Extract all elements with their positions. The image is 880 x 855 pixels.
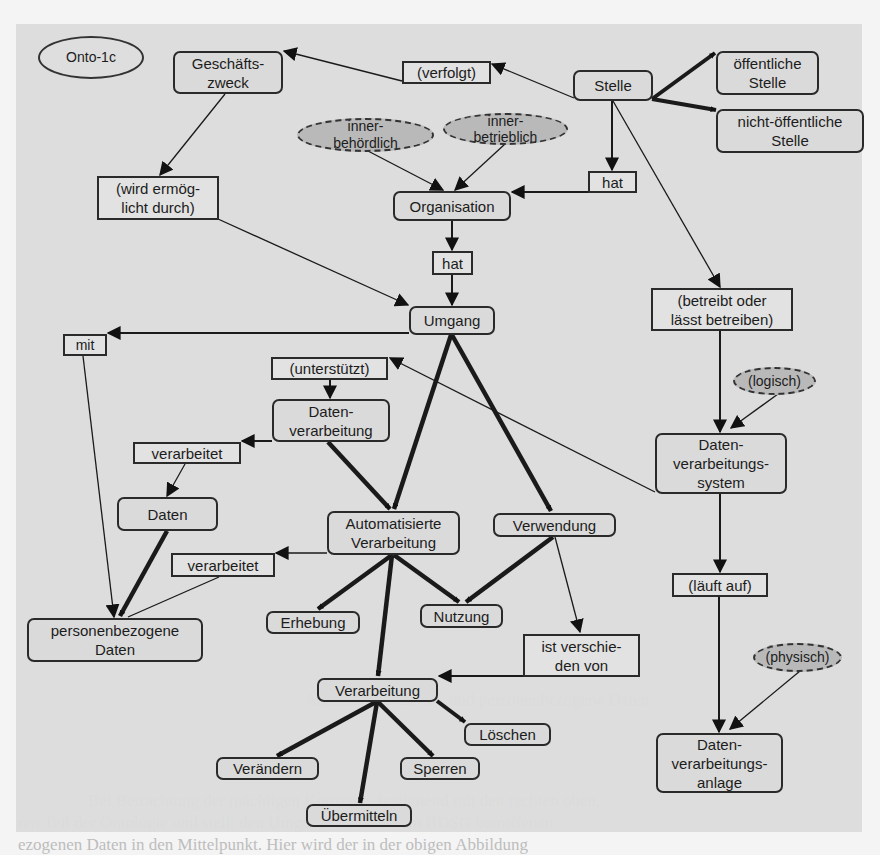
edge-umgang-verwendung <box>452 335 551 511</box>
concept-personenbezogene-daten[interactable]: personenbezogene Daten <box>27 618 203 662</box>
attribute-physisch[interactable]: (physisch) <box>753 643 842 672</box>
concept-label: Sperren <box>413 759 466 778</box>
concept-label: Daten- verarbeitungs- anlage <box>672 735 768 792</box>
concept-label: Verändern <box>233 759 302 778</box>
concept-label: nicht-öffentliche Stelle <box>738 112 843 150</box>
concept-label: Daten- verarbeitung <box>289 402 372 440</box>
edge-automatisiert-verarbeitung <box>378 555 392 676</box>
edge-physisch-dvanlage <box>730 671 800 729</box>
concept-datenverarbeitungssystem[interactable]: Daten- verarbeitungs- system <box>655 433 787 494</box>
edge-ermoeglicht-umgang <box>218 219 408 305</box>
attribute-label: (logisch) <box>748 372 801 391</box>
concept-label: Übermitteln <box>321 806 398 825</box>
concept-label: Erhebung <box>280 613 345 632</box>
attribute-label: inner- betrieblich <box>474 113 538 145</box>
relation-label: (betreibt oder lässt betreiben) <box>671 291 774 329</box>
edge-stelle-nicht-oeffentliche <box>652 99 716 110</box>
concept-datenverarbeitungsanlage[interactable]: Daten- verarbeitungs- anlage <box>656 733 783 793</box>
attribute-label: inner- behördlich <box>333 118 398 152</box>
concept-nicht-oeffentliche-stelle[interactable]: nicht-öffentliche Stelle <box>716 109 864 153</box>
concept-erhebung[interactable]: Erhebung <box>266 611 360 634</box>
concept-sperren[interactable]: Sperren <box>400 757 480 780</box>
concept-label: Organisation <box>409 197 494 216</box>
relation-betreibt-oder-laesst-betreiben[interactable]: (betreibt oder lässt betreiben) <box>651 288 793 331</box>
edge-verarbeitung-uebermitteln <box>360 702 377 803</box>
edge-verarbeitung-veraendern <box>277 702 376 756</box>
edge-verarbeitet-daten <box>167 464 185 496</box>
concept-nutzung[interactable]: Nutzung <box>420 604 503 628</box>
concept-umgang[interactable]: Umgang <box>409 306 495 335</box>
edge-geschaeftszweck-ermoeglicht <box>160 94 225 175</box>
concept-uebermitteln[interactable]: Übermitteln <box>306 804 412 827</box>
relation-verfolgt[interactable]: (verfolgt) <box>402 61 491 84</box>
concept-loeschen[interactable]: Löschen <box>464 723 551 746</box>
concept-label: personenbezogene Daten <box>51 621 179 659</box>
edge-verwendung-verschieden <box>555 537 580 632</box>
concept-label: Daten <box>147 505 187 524</box>
edge-automatisiert-erhebung <box>318 555 392 609</box>
edge-verarbeitung-loeschen <box>437 701 465 722</box>
concept-stelle[interactable]: Stelle <box>573 70 653 101</box>
relation-laeuft-auf[interactable]: (läuft auf) <box>672 573 768 597</box>
relation-verarbeitet-personenbezogene[interactable]: verarbeitet <box>171 553 275 577</box>
concept-geschaeftszweck[interactable]: Geschäfts- zweck <box>173 51 283 94</box>
attribute-label: (physisch) <box>766 648 830 667</box>
concept-verarbeitung[interactable]: Verarbeitung <box>317 678 438 702</box>
edge-verwendung-nutzung <box>466 537 553 602</box>
relation-label: (unterstützt) <box>289 359 369 378</box>
edge-dvsystem-unterstuetzt <box>390 358 655 492</box>
relation-ist-verschieden-von[interactable]: ist verschie- den von <box>523 634 640 677</box>
concept-label: Stelle <box>594 76 632 95</box>
edge-mit-personenbezogene <box>83 356 114 617</box>
edge-stelle-verfolgt <box>492 64 574 98</box>
concept-automatisierte-verarbeitung[interactable]: Automatisierte Verarbeitung <box>327 511 460 555</box>
edge-umgang-automatisiert <box>394 335 451 509</box>
concept-label: öffentliche Stelle <box>733 54 801 92</box>
edge-verarbeitet-personenbezogene <box>128 577 219 617</box>
attribute-innerbehoerdlich[interactable]: inner- behördlich <box>297 118 434 152</box>
relation-label: hat <box>602 173 623 192</box>
concept-organisation[interactable]: Organisation <box>393 191 511 221</box>
edge-verfolgt-geschaeftszweck <box>284 51 402 81</box>
edge-datenverarbeitung-automatisiert <box>328 442 390 509</box>
edge-logisch-dvsystem <box>731 394 778 428</box>
concept-label: Geschäfts- zweck <box>192 54 265 92</box>
diagram-label-text: Onto-1c <box>66 48 116 67</box>
attribute-innerbetrieblich[interactable]: inner- betrieblich <box>443 113 568 145</box>
diagram-label-ellipse[interactable]: Onto-1c <box>38 36 144 79</box>
relation-hat-stelle[interactable]: hat <box>588 171 637 193</box>
edge-innerbehoerdlich-organisation <box>368 151 443 190</box>
relation-label: (verfolgt) <box>417 63 476 82</box>
relation-label: verarbeitet <box>188 556 259 575</box>
concept-oeffentliche-stelle[interactable]: öffentliche Stelle <box>716 51 819 95</box>
relation-label: ist verschie- den von <box>541 637 621 675</box>
relation-label: (läuft auf) <box>688 576 751 595</box>
concept-datenverarbeitung[interactable]: Daten- verarbeitung <box>272 399 390 442</box>
edge-automatisiert-nutzung <box>394 555 459 602</box>
relation-wird-ermoeglicht-durch[interactable]: (wird ermög- licht durch) <box>97 176 219 220</box>
relation-mit[interactable]: mit <box>63 334 107 356</box>
edge-verarbeitung-sperren <box>378 702 433 756</box>
relation-label: (wird ermög- licht durch) <box>116 179 200 217</box>
edge-stelle-oeffentliche <box>652 53 715 99</box>
concept-daten[interactable]: Daten <box>117 497 218 531</box>
relation-verarbeitet-daten[interactable]: verarbeitet <box>133 442 241 464</box>
relation-label: mit <box>76 336 95 355</box>
concept-label: Verarbeitung <box>335 681 420 700</box>
concept-label: Verwendung <box>513 516 596 535</box>
attribute-logisch[interactable]: (logisch) <box>733 367 816 395</box>
edge-stelle-betreibt <box>613 101 720 287</box>
relation-label: hat <box>442 254 463 273</box>
concept-label: Nutzung <box>434 607 490 626</box>
concept-label: Daten- verarbeitungs- system <box>673 435 769 492</box>
concept-label: Automatisierte Verarbeitung <box>346 514 442 552</box>
concept-verwendung[interactable]: Verwendung <box>493 513 616 537</box>
edge-innerbetrieblich-organisation <box>455 144 505 190</box>
relation-label: verarbeitet <box>152 444 223 463</box>
concept-veraendern[interactable]: Verändern <box>216 757 319 780</box>
concept-label: Umgang <box>424 311 481 330</box>
relation-unterstuetzt[interactable]: (unterstützt) <box>271 357 388 380</box>
relation-hat-organisation[interactable]: hat <box>432 251 473 275</box>
concept-label: Löschen <box>479 725 536 744</box>
